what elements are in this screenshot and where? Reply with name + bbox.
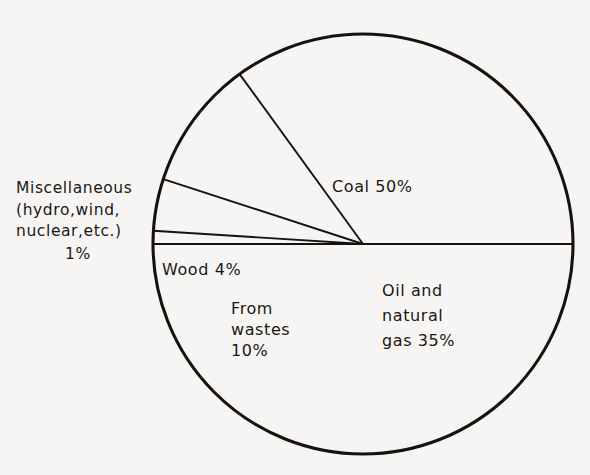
slice-value-from-wastes: 10% xyxy=(231,340,290,361)
slice-label-wood: Wood 4% xyxy=(162,262,241,278)
slice-label-oil-and-natural-gas: Oil and natural gas 35% xyxy=(382,278,455,353)
slice-label-miscellaneous-line3: nuclear,etc.) xyxy=(16,221,140,243)
slice-label-from-wastes-line2: wastes xyxy=(231,319,290,340)
slice-label-oil-and-natural-gas-line1: Oil and xyxy=(382,278,455,303)
slice-label-miscellaneous-line1: Miscellaneous xyxy=(16,178,140,200)
slice-value-miscellaneous: 1% xyxy=(16,243,140,266)
slice-divider-wastes-oil xyxy=(240,74,363,244)
slice-label-miscellaneous-line2: (hydro,wind, xyxy=(16,200,140,222)
slice-label-miscellaneous: Miscellaneous (hydro,wind, nuclear,etc.)… xyxy=(16,178,140,265)
slice-label-from-wastes-line1: From xyxy=(231,298,290,319)
slice-value-oil-and-natural-gas: gas 35% xyxy=(382,328,455,353)
slice-label-oil-and-natural-gas-line2: natural xyxy=(382,303,455,328)
pie-chart-figure: Miscellaneous (hydro,wind, nuclear,etc.)… xyxy=(0,0,590,475)
slice-label-coal: Coal 50% xyxy=(332,179,413,195)
slice-label-from-wastes: From wastes 10% xyxy=(231,298,290,361)
